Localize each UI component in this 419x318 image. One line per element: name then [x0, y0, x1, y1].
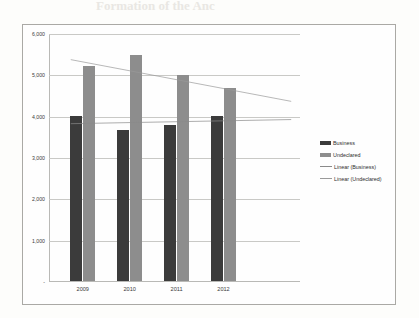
legend-item-linear-undeclared[interactable]: Linear (Undeclared)	[320, 173, 416, 184]
legend-item-linear-business[interactable]: Linear (Business)	[320, 161, 416, 172]
legend-item-business[interactable]: Business	[320, 137, 416, 148]
x-axis-tick-label-2010: 2010	[123, 286, 135, 292]
x-axis-tick-label-2009: 2009	[77, 286, 89, 292]
legend-line-business-icon	[320, 166, 332, 167]
legend-label-linear-business: Linear (Business)	[334, 164, 376, 170]
y-axis-tick-label: 4,000	[5, 114, 45, 120]
chart-legend: Business Undeclared Linear (Business) Li…	[320, 137, 416, 185]
y-axis-tick-label: 6,000	[5, 31, 45, 37]
trendline-linear-undeclared-	[71, 60, 291, 102]
y-axis-tick-label: 3,000	[5, 155, 45, 161]
y-axis-tick-label: 2,000	[5, 196, 45, 202]
x-axis-tick-label-2011: 2011	[171, 286, 183, 292]
legend-line-undeclared-icon	[320, 178, 332, 179]
chart-container: -1,0002,0003,0004,0005,0006,000 20092010…	[22, 24, 396, 305]
legend-item-undeclared[interactable]: Undeclared	[320, 149, 416, 160]
y-axis-tick-label: 1,000	[5, 238, 45, 244]
bleedthrough-text-top: Formation of the Anc	[96, 0, 215, 14]
x-axis-tick-label-2012: 2012	[217, 286, 229, 292]
trendline-group	[49, 34, 300, 282]
y-axis-tick-label: -	[5, 279, 45, 285]
trendline-linear-business-	[71, 120, 291, 124]
legend-swatch-undeclared-icon	[320, 153, 331, 157]
legend-label-linear-undeclared: Linear (Undeclared)	[334, 176, 382, 182]
legend-label-business: Business	[333, 140, 355, 146]
legend-label-undeclared: Undeclared	[333, 152, 361, 158]
legend-swatch-business-icon	[320, 141, 331, 145]
y-axis-tick-label: 5,000	[5, 72, 45, 78]
plot-area: -1,0002,0003,0004,0005,0006,000 20092010…	[49, 34, 300, 282]
